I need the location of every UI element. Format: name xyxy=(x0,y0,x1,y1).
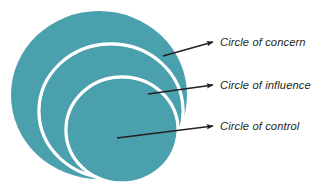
label-group: Circle of concern Circle of influence Ci… xyxy=(220,36,311,132)
circle-group xyxy=(11,11,187,183)
label-circle-of-influence: Circle of influence xyxy=(220,79,311,91)
label-circle-of-concern: Circle of concern xyxy=(220,36,306,48)
circles-diagram: Circle of concern Circle of influence Ci… xyxy=(0,0,322,193)
circle-of-control-shape xyxy=(68,79,177,182)
label-circle-of-control: Circle of control xyxy=(220,120,300,132)
circles-diagram-canvas: Circle of concern Circle of influence Ci… xyxy=(0,0,322,193)
